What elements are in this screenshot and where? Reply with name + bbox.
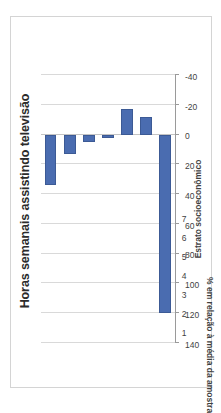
plot-area: [41, 75, 175, 343]
bar: [83, 135, 95, 142]
bar: [45, 135, 57, 186]
category-axis-tick-label: 6: [182, 233, 187, 243]
value-axis-title: % em relação à média da amostra: [205, 277, 215, 413]
category-axis-tick-label: 3: [182, 290, 187, 300]
category-axis-tick-label: 4: [182, 271, 187, 281]
chart-title: Horas semanais assistindo televisão: [18, 15, 32, 387]
category-axis-tick-label: 5: [182, 252, 187, 262]
category-axis-tick-label: 7: [182, 214, 187, 224]
bar: [64, 135, 76, 154]
chart-frame: Horas semanais assistindo televisão 1401…: [10, 16, 212, 388]
bar: [159, 135, 171, 314]
category-axis-tick-label: 1: [182, 328, 187, 338]
bar: [121, 109, 133, 134]
bar: [102, 135, 114, 138]
bar: [140, 117, 152, 135]
category-axis-title: Estrato socioeconômico: [193, 75, 203, 343]
bars-group: [41, 75, 175, 343]
category-axis-tick-label: 2: [182, 309, 187, 319]
value-axis-line: [175, 75, 176, 343]
